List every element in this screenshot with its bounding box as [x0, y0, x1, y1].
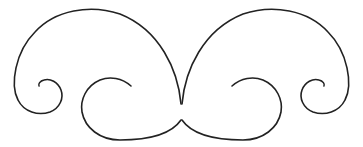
right-scroll-shape	[182, 9, 349, 140]
right-scroll-inner-spiral	[182, 78, 281, 140]
right-scroll-outer-arc	[182, 9, 349, 113]
illustration-canvas	[0, 0, 363, 147]
scroll-ornament-drawing	[0, 0, 363, 147]
left-scroll-inner-spiral	[82, 78, 181, 140]
left-scroll-outer-arc	[14, 9, 181, 113]
left-scroll-shape	[14, 9, 181, 140]
